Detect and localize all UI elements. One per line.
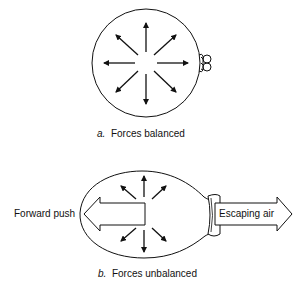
caption-a-letter: a. bbox=[97, 128, 105, 139]
forward-push-label: Forward push bbox=[14, 208, 75, 219]
escaping-air-label: Escaping air bbox=[219, 208, 274, 219]
caption-b: b. Forces unbalanced bbox=[98, 268, 197, 279]
caption-a-text: Forces balanced bbox=[111, 128, 185, 139]
forward-push-arrow bbox=[84, 197, 145, 231]
caption-b-text: Forces unbalanced bbox=[112, 268, 197, 279]
caption-a: a. Forces balanced bbox=[97, 128, 185, 139]
caption-b-letter: b. bbox=[98, 268, 106, 279]
balloon-knot bbox=[199, 54, 211, 72]
balanced-balloon bbox=[92, 9, 211, 117]
balloon-diagram bbox=[0, 0, 307, 290]
